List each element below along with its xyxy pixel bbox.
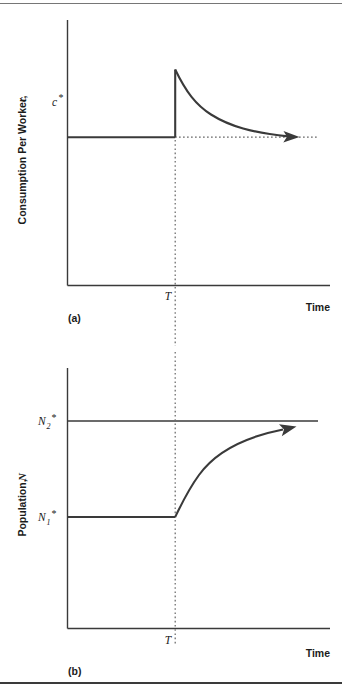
panel-b-ytick-n2star-asterisk: * — [52, 412, 57, 423]
panel-b-y-axis-title: Population, N — [16, 472, 28, 537]
panel-b-rising-curve — [175, 430, 283, 518]
panel-b-ytick-n2star-base: N — [37, 415, 47, 427]
panel-b: Population, N N 2 * N 1 * T Time (b) — [16, 352, 330, 677]
panel-a: Consumption Per Worker, c c * T Time (a) — [16, 20, 330, 346]
panel-a-decay-curve — [175, 70, 288, 137]
panel-a-y-axis-title-symbol: c — [16, 97, 28, 102]
panel-b-y-axis-title-symbol: N — [16, 472, 28, 482]
panel-a-x-axis-title: Time — [306, 301, 330, 313]
panel-b-ytick-n2star-subscript: 2 — [47, 422, 51, 431]
figure-container: Consumption Per Worker, c c * T Time (a) — [0, 0, 342, 697]
panel-a-y-axis-title-text: Consumption Per Worker, — [16, 96, 28, 225]
panel-b-ytick-n1star-asterisk: * — [52, 508, 57, 519]
panel-a-y-axis-title: Consumption Per Worker, c — [16, 96, 28, 225]
economics-figure: Consumption Per Worker, c c * T Time (a) — [0, 0, 342, 697]
panel-a-xtick-T: T — [165, 290, 173, 302]
panel-b-y-axis-title-text: Population, — [16, 479, 28, 536]
panel-b-ytick-n2star: N 2 * — [37, 412, 57, 431]
panel-b-x-axis-title: Time — [306, 647, 330, 659]
panel-b-ytick-n1star: N 1 * — [37, 508, 57, 527]
panel-b-label: (b) — [68, 665, 81, 677]
panel-a-ytick-cstar-base: c — [52, 96, 57, 108]
panel-a-label: (a) — [68, 312, 81, 324]
panel-a-ytick-cstar: c * — [52, 92, 64, 108]
panel-b-ytick-n1star-base: N — [37, 511, 47, 523]
panel-b-xtick-T: T — [165, 634, 173, 646]
panel-a-ytick-cstar-asterisk: * — [59, 92, 64, 103]
panel-b-ytick-n1star-subscript: 1 — [47, 518, 51, 527]
